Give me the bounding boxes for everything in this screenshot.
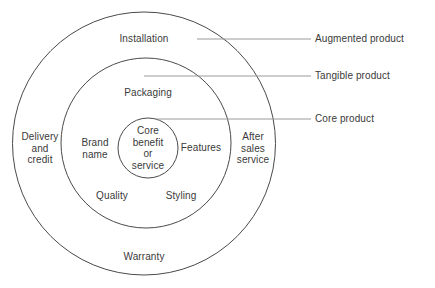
product-levels-diagram: Installation Delivery and credit After s… — [0, 0, 435, 288]
outer-ring-label-delivery-and-credit: Delivery and credit — [22, 131, 59, 166]
middle-ring-label-features: Features — [181, 142, 221, 154]
inner-circle-label-core-benefit-or-service: Core benefit or service — [132, 125, 164, 171]
callout-label-augmented-product: Augmented product — [315, 33, 404, 45]
callout-label-tangible-product: Tangible product — [315, 70, 390, 82]
middle-ring-label-brand-name: Brand name — [81, 137, 108, 160]
middle-ring-label-quality: Quality — [96, 190, 128, 202]
middle-ring-label-packaging: Packaging — [124, 87, 172, 99]
outer-ring-label-warranty: Warranty — [124, 251, 165, 263]
outer-ring-label-after-sales-service: After sales service — [237, 131, 269, 166]
middle-ring-label-styling: Styling — [166, 190, 197, 202]
callout-label-core-product: Core product — [315, 113, 374, 125]
outer-ring-label-installation: Installation — [119, 33, 168, 45]
